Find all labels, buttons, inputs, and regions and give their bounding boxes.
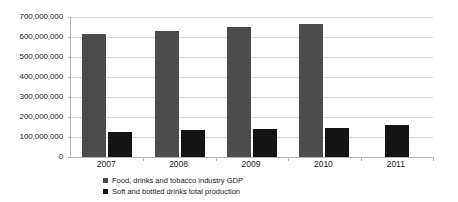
y-axis-tick-label: 0 — [59, 153, 63, 161]
y-axis-tick-label: 200,000,000 — [20, 113, 63, 121]
bar-group — [216, 17, 288, 157]
x-axis-tick-label: 2009 — [242, 160, 261, 169]
y-axis-tick-label: 300,000,000 — [20, 93, 63, 101]
plot-area — [70, 17, 433, 158]
legend-swatch-icon — [103, 178, 108, 183]
y-axis-tick-label: 700,000,000 — [20, 13, 63, 21]
bar-group — [361, 17, 433, 157]
bar — [227, 27, 251, 157]
chart-legend: Food, drinks and tobacco industry GDPSof… — [0, 175, 458, 197]
x-axis-tick-label: 2010 — [314, 160, 333, 169]
x-axis-tick — [433, 157, 434, 161]
x-axis-tick-label: 2007 — [97, 160, 116, 169]
legend-label: Food, drinks and tobacco industry GDP — [112, 177, 243, 185]
legend-item[interactable]: Soft and bottled drinks total production — [0, 186, 458, 197]
bar — [253, 129, 277, 157]
y-axis: 0100,000,000200,000,000300,000,000400,00… — [0, 0, 68, 170]
y-axis-tick-label: 400,000,000 — [20, 73, 63, 81]
y-axis-tick-label: 600,000,000 — [20, 33, 63, 41]
bar-group — [71, 17, 143, 157]
bar — [299, 24, 323, 157]
bar-chart: 0100,000,000200,000,000300,000,000400,00… — [0, 0, 458, 202]
x-axis: 20072008200920102011 — [70, 160, 432, 174]
legend-swatch-icon — [103, 189, 108, 194]
bar-group — [288, 17, 360, 157]
bar — [385, 125, 409, 157]
bar — [108, 132, 132, 157]
legend-item[interactable]: Food, drinks and tobacco industry GDP — [0, 175, 458, 186]
legend-label: Soft and bottled drinks total production — [112, 188, 240, 196]
bar-group — [143, 17, 215, 157]
y-axis-tick-label: 500,000,000 — [20, 53, 63, 61]
y-axis-tick-label: 100,000,000 — [20, 133, 63, 141]
y-axis-tick — [68, 157, 71, 158]
bar — [325, 128, 349, 157]
x-axis-tick-label: 2008 — [169, 160, 188, 169]
bar — [181, 130, 205, 157]
bar — [155, 31, 179, 157]
bar — [82, 34, 106, 157]
x-axis-tick-label: 2011 — [387, 160, 405, 169]
